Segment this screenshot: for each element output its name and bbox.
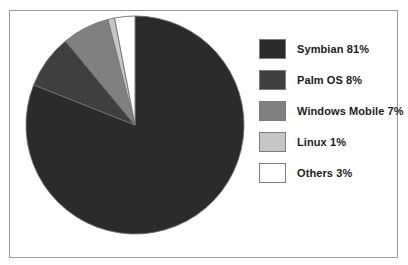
legend-item[interactable]: Linux 1% [259, 132, 399, 152]
legend-item[interactable]: Symbian 81% [259, 39, 399, 59]
pie-slice-group [26, 16, 244, 234]
legend-swatch [259, 163, 286, 183]
pie-chart-svg [25, 15, 245, 235]
chart-frame: Symbian 81%Palm OS 8%Windows Mobile 7%Li… [9, 10, 398, 258]
legend-swatch [259, 70, 286, 90]
chart-legend: Symbian 81%Palm OS 8%Windows Mobile 7%Li… [259, 39, 399, 194]
legend-label: Windows Mobile 7% [297, 105, 404, 117]
legend-label: Symbian 81% [297, 43, 369, 55]
legend-item[interactable]: Palm OS 8% [259, 70, 399, 90]
legend-label: Palm OS 8% [297, 74, 362, 86]
legend-item[interactable]: Others 3% [259, 163, 399, 183]
legend-swatch [259, 39, 286, 59]
legend-label: Linux 1% [297, 136, 346, 148]
legend-swatch [259, 101, 286, 121]
pie-chart [25, 15, 245, 235]
legend-item[interactable]: Windows Mobile 7% [259, 101, 399, 121]
legend-swatch [259, 132, 286, 152]
legend-label: Others 3% [297, 167, 352, 179]
